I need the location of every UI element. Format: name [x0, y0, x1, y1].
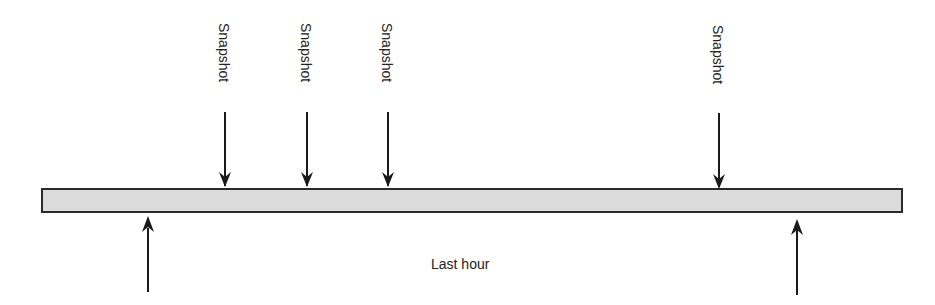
- snapshot-label: Snapshot: [298, 23, 314, 82]
- snapshot-label: Snapshot: [379, 23, 395, 82]
- snapshot-label: Snapshot: [710, 25, 726, 84]
- snapshot-marker: Snapshot: [710, 25, 726, 189]
- window-label: Last hour: [431, 256, 490, 272]
- snapshot-label: Snapshot: [216, 23, 232, 82]
- window-end-marker: [791, 219, 803, 295]
- timeline-bar: [42, 189, 902, 212]
- snapshot-marker: Snapshot: [298, 23, 314, 187]
- snapshot-marker: Snapshot: [216, 23, 232, 187]
- snapshot-marker: Snapshot: [379, 23, 395, 187]
- window-start-marker: [142, 216, 154, 292]
- snapshot-timeline-diagram: Snapshot Snapshot Snapshot Snapshot Last…: [0, 0, 935, 305]
